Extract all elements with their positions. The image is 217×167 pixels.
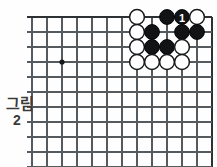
stone-white[interactable]: [130, 55, 145, 70]
figure-caption: 그림 2: [6, 96, 28, 128]
stone-black[interactable]: [160, 10, 175, 25]
stone-white[interactable]: [190, 10, 205, 25]
stone-black[interactable]: [160, 40, 175, 55]
stone-white[interactable]: [130, 25, 145, 40]
go-board-canvas[interactable]: 1: [0, 0, 217, 167]
stone-white[interactable]: [160, 55, 175, 70]
go-diagram-screenshot: 1 그림 2: [0, 0, 217, 167]
stone-black[interactable]: [145, 40, 160, 55]
go-board[interactable]: 1: [0, 0, 217, 167]
stone-black[interactable]: 1: [175, 10, 190, 25]
stone-move-number: 1: [179, 12, 185, 24]
figure-caption-line-2: 2: [6, 112, 28, 128]
stone-black[interactable]: [190, 25, 205, 40]
stone-white[interactable]: [145, 55, 160, 70]
stone-black[interactable]: [175, 25, 190, 40]
star-point-icon: [59, 59, 64, 64]
stone-white[interactable]: [175, 55, 190, 70]
figure-caption-line-1: 그림: [6, 96, 28, 112]
board-stones[interactable]: 1: [130, 10, 205, 70]
board-star-points: [59, 59, 64, 64]
stone-white[interactable]: [175, 40, 190, 55]
stone-white[interactable]: [130, 40, 145, 55]
stone-black[interactable]: [145, 25, 160, 40]
stone-white[interactable]: [130, 10, 145, 25]
